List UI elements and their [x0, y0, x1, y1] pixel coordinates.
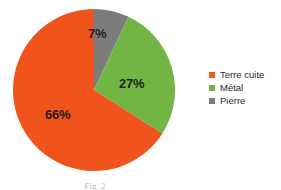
legend-item-metal[interactable]: Métal: [209, 81, 281, 94]
pie-slice-label-pierre: 7%: [88, 26, 106, 41]
legend-item-terre-cuite[interactable]: Terre cuite: [209, 68, 281, 81]
figure-caption: Fig. 2: [0, 181, 190, 190]
legend-swatch-icon-terre-cuite: [209, 72, 215, 78]
pie-slice-label-metal: 27%: [119, 76, 144, 91]
legend-swatch-icon-pierre: [209, 98, 215, 104]
legend-label-metal: Métal: [220, 81, 243, 94]
pie-chart-area: 7% 27% 66% Fig. 2: [0, 0, 190, 180]
pie-chart-figure: 7% 27% 66% Fig. 2 Terre cuite Métal Pier…: [0, 0, 281, 190]
pie-slice-label-terre-cuite: 66%: [45, 107, 70, 122]
legend-label-terre-cuite: Terre cuite: [220, 68, 264, 81]
legend-label-pierre: Pierre: [220, 94, 245, 107]
chart-legend: Terre cuite Métal Pierre: [209, 68, 281, 107]
legend-swatch-icon-metal: [209, 85, 215, 91]
legend-item-pierre[interactable]: Pierre: [209, 94, 281, 107]
